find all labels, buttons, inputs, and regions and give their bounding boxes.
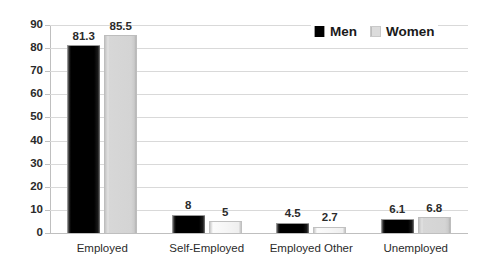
bar-group: 81.385.5 xyxy=(67,25,137,233)
plot-area: 81.385.5854.52.76.16.8 xyxy=(50,25,468,233)
y-tick-label-90: 90 xyxy=(9,19,43,31)
bar-value-label: 4.5 xyxy=(285,208,301,220)
x-axis-label-unemployed: Unemployed xyxy=(364,243,469,255)
bar-value-label: 8 xyxy=(185,200,191,212)
bar-value-label: 6.1 xyxy=(389,204,405,216)
bar-chart: 0102030405060708090 81.385.5854.52.76.16… xyxy=(0,0,481,277)
bar-women-employed[interactable] xyxy=(104,35,137,233)
bar-group: 4.52.7 xyxy=(276,25,346,233)
y-tick-label-10: 10 xyxy=(9,204,43,216)
gridline-0 xyxy=(50,233,468,234)
y-tick-label-30: 30 xyxy=(9,158,43,170)
legend-label: Men xyxy=(330,25,357,39)
chart-legend: MenWomen xyxy=(311,23,438,41)
bar-women-self-employed[interactable] xyxy=(209,221,242,233)
y-tick-label-20: 20 xyxy=(9,181,43,193)
y-tick-label-80: 80 xyxy=(9,42,43,54)
bar-value-label: 81.3 xyxy=(73,31,95,43)
bar-women-unemployed[interactable] xyxy=(418,217,451,233)
y-tick-label-50: 50 xyxy=(9,112,43,124)
bar-value-label: 6.8 xyxy=(426,203,442,215)
bar-men-unemployed[interactable] xyxy=(381,219,414,233)
legend-entry-women[interactable]: Women xyxy=(370,25,435,39)
bar-group: 85 xyxy=(172,25,242,233)
legend-swatch-men-icon xyxy=(314,26,325,37)
bar-value-label: 85.5 xyxy=(110,21,132,33)
y-tick-label-60: 60 xyxy=(9,89,43,101)
legend-entry-men[interactable]: Men xyxy=(314,25,357,39)
x-axis-label-self-employed: Self-Employed xyxy=(155,243,260,255)
legend-swatch-women-icon xyxy=(370,26,381,37)
bar-men-self-employed[interactable] xyxy=(172,215,205,233)
bar-value-label: 2.7 xyxy=(322,212,338,224)
y-tick-label-0: 0 xyxy=(9,227,43,239)
bar-group: 6.16.8 xyxy=(381,25,451,233)
bar-women-employed-other[interactable] xyxy=(313,227,346,233)
bar-value-label: 5 xyxy=(222,207,228,219)
legend-label: Women xyxy=(386,25,435,39)
y-tick-label-70: 70 xyxy=(9,65,43,77)
bar-men-employed[interactable] xyxy=(67,45,100,233)
y-tick-label-40: 40 xyxy=(9,135,43,147)
bar-men-employed-other[interactable] xyxy=(276,223,309,233)
x-axis-label-employed-other: Employed Other xyxy=(259,243,364,255)
x-axis-label-employed: Employed xyxy=(50,243,155,255)
